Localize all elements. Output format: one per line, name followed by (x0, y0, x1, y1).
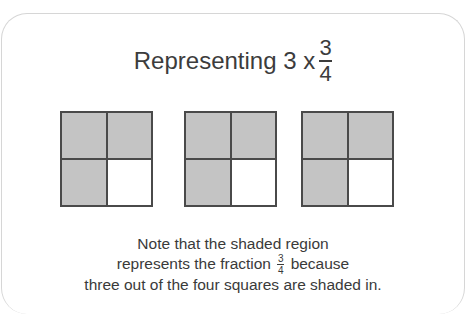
note-line-2-after: because (291, 255, 350, 272)
note-fraction-denominator: 4 (278, 266, 284, 275)
fraction-square-2 (184, 111, 277, 207)
diagram-title: Representing 3 x 3 4 (0, 38, 466, 84)
shaded-cell (185, 112, 231, 159)
fraction-square-1 (60, 111, 153, 207)
empty-cell (107, 159, 153, 206)
shaded-cell (348, 112, 394, 159)
empty-cell (231, 159, 277, 206)
note-line-2-before: represents the fraction (117, 255, 271, 272)
shaded-cell (107, 112, 153, 159)
note-fraction-numerator: 3 (278, 254, 284, 263)
fraction-squares (0, 111, 466, 209)
note-line-1: Note that the shaded region (0, 234, 466, 254)
title-fraction-numerator: 3 (320, 38, 332, 58)
title-fraction: 3 4 (319, 38, 332, 84)
shaded-cell (185, 159, 231, 206)
empty-cell (348, 159, 394, 206)
fraction-square-3 (301, 111, 394, 207)
title-text: Representing 3 x (134, 47, 315, 74)
note-line-2: represents the fraction 3 4 because (0, 254, 466, 275)
shaded-cell (302, 159, 348, 206)
shaded-cell (302, 112, 348, 159)
title-fraction-denominator: 4 (320, 64, 332, 84)
shaded-cell (61, 159, 107, 206)
note-fraction: 3 4 (277, 254, 284, 275)
note-line-3: three out of the four squares are shaded… (0, 275, 466, 295)
explanation-note: Note that the shaded region represents t… (0, 234, 466, 295)
shaded-cell (231, 112, 277, 159)
shaded-cell (61, 112, 107, 159)
